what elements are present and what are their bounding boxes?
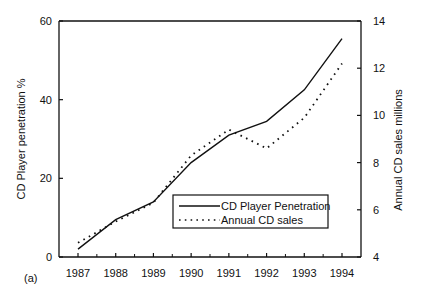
right-axis-title: Annual CD sales millions xyxy=(392,89,404,211)
legend-label-penetration: CD Player Penetration xyxy=(221,200,330,212)
right-tick-label: 8 xyxy=(373,157,379,169)
x-tick-label: 1989 xyxy=(141,267,165,279)
right-tick-label: 4 xyxy=(373,251,379,263)
left-axis-title: CD Player penetration % xyxy=(15,78,27,199)
x-tick-label: 1993 xyxy=(292,267,316,279)
left-tick-label: 40 xyxy=(40,94,52,106)
right-tick-label: 10 xyxy=(373,109,385,121)
right-tick-label: 14 xyxy=(373,15,385,27)
left-tick-label: 20 xyxy=(40,172,52,184)
panel-label: (a) xyxy=(24,272,37,284)
x-tick-label: 1988 xyxy=(103,267,127,279)
dual-axis-line-chart: 0204060 468101214 1987198819891990199119… xyxy=(0,0,423,298)
x-tick-label: 1991 xyxy=(217,267,241,279)
x-tick-label: 1992 xyxy=(254,267,278,279)
x-tick-label: 1990 xyxy=(179,267,203,279)
legend: CD Player Penetration Annual CD sales xyxy=(173,195,330,228)
legend-label-cd-sales: Annual CD sales xyxy=(221,214,303,226)
x-tick-label: 1994 xyxy=(330,267,354,279)
x-tick-label: 1987 xyxy=(66,267,90,279)
left-tick-label: 60 xyxy=(40,15,52,27)
right-tick-label: 12 xyxy=(373,62,385,74)
left-tick-label: 0 xyxy=(46,251,52,263)
right-tick-label: 6 xyxy=(373,204,379,216)
